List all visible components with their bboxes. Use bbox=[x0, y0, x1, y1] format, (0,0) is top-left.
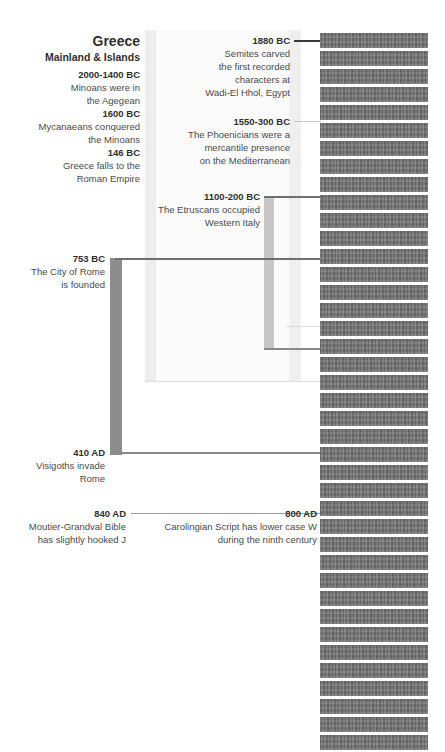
redacted-text-row bbox=[320, 249, 428, 264]
redacted-text-row bbox=[320, 303, 428, 318]
connector-300bc-tick bbox=[287, 326, 321, 327]
redacted-text-row bbox=[320, 663, 428, 678]
entry-year: 1600 BC bbox=[0, 107, 140, 120]
redacted-text-row bbox=[320, 393, 428, 408]
redacted-text-row bbox=[320, 591, 428, 606]
entry-year: 146 BC bbox=[0, 146, 140, 159]
redacted-text-row bbox=[320, 447, 428, 462]
redacted-text-row bbox=[320, 177, 428, 192]
connector-1550bc bbox=[294, 121, 321, 122]
redacted-text-row bbox=[320, 231, 428, 246]
redacted-text-row bbox=[320, 717, 428, 732]
connector-1880bc bbox=[294, 40, 321, 42]
entry-1880bc: 1880 BC Semites carved the first recorde… bbox=[160, 34, 290, 99]
redacted-text-row bbox=[320, 735, 428, 750]
redacted-text-row bbox=[320, 105, 428, 120]
redacted-text-row bbox=[320, 339, 428, 354]
connector-410ad bbox=[115, 452, 321, 454]
redacted-text-row bbox=[320, 357, 428, 372]
band-semitic-pale bbox=[289, 30, 301, 382]
redacted-text-row bbox=[320, 483, 428, 498]
redacted-text-row bbox=[320, 645, 428, 660]
redacted-text-row bbox=[320, 465, 428, 480]
entry-2000-1400bc: 2000-1400 BC Minoans were in the Agegean bbox=[0, 68, 140, 107]
redacted-text-row bbox=[320, 375, 428, 390]
redacted-text-row bbox=[320, 87, 428, 102]
redacted-text-row bbox=[320, 501, 428, 516]
redacted-text-column bbox=[320, 33, 428, 752]
entry-desc: The Etruscans occupied Western Italy bbox=[130, 203, 260, 229]
entry-year: 2000-1400 BC bbox=[0, 68, 140, 81]
entry-1600bc: 1600 BC Mycanaeans conquered the Minoans bbox=[0, 107, 140, 146]
connector-1100bc bbox=[264, 196, 321, 198]
entry-year: 410 AD bbox=[0, 446, 105, 459]
entry-800ad: 800 AD Carolingian Script has lower case… bbox=[135, 507, 317, 546]
entry-desc: Mycanaeans conquered the Minoans bbox=[0, 120, 140, 146]
redacted-text-row bbox=[320, 573, 428, 588]
entry-year: 1550-300 BC bbox=[150, 115, 290, 128]
entry-year: 1880 BC bbox=[160, 34, 290, 47]
connector-etruscan-end bbox=[264, 348, 321, 350]
redacted-text-row bbox=[320, 429, 428, 444]
page-subtitle: Mainland & Islands bbox=[0, 50, 140, 65]
entry-753bc: 753 BC The City of Rome is founded bbox=[0, 252, 105, 291]
redacted-text-row bbox=[320, 627, 428, 642]
connector-band-baseline bbox=[145, 381, 321, 382]
entry-desc: The City of Rome is founded bbox=[0, 265, 105, 291]
band-etruscan-dark bbox=[264, 196, 274, 349]
redacted-text-row bbox=[320, 123, 428, 138]
timeline-figure: Greece Mainland & Islands 2000-1400 BC M… bbox=[0, 0, 445, 752]
redacted-text-row bbox=[320, 213, 428, 228]
entry-desc: The Phoenicians were a mercantile presen… bbox=[150, 128, 290, 167]
connector-753bc bbox=[115, 258, 321, 260]
entry-840ad: 840 AD Moutier-Grandval Bible has slight… bbox=[0, 507, 126, 546]
redacted-text-row bbox=[320, 681, 428, 696]
redacted-text-row bbox=[320, 555, 428, 570]
entry-1100-200bc: 1100-200 BC The Etruscans occupied Weste… bbox=[130, 190, 260, 229]
redacted-text-row bbox=[320, 699, 428, 714]
redacted-text-row bbox=[320, 51, 428, 66]
entry-410ad: 410 AD Visigoths invade Rome bbox=[0, 446, 105, 485]
entry-desc: Minoans were in the Agegean bbox=[0, 81, 140, 107]
entry-year: 753 BC bbox=[0, 252, 105, 265]
redacted-text-row bbox=[320, 33, 428, 48]
band-rome-dark bbox=[110, 258, 122, 455]
redacted-text-row bbox=[320, 285, 428, 300]
redacted-text-row bbox=[320, 537, 428, 552]
redacted-text-row bbox=[320, 411, 428, 426]
redacted-text-row bbox=[320, 267, 428, 282]
page-title: Greece bbox=[0, 33, 140, 50]
entry-year: 800 AD bbox=[135, 507, 317, 520]
redacted-text-row bbox=[320, 141, 428, 156]
entry-1550-300bc: 1550-300 BC The Phoenicians were a merca… bbox=[150, 115, 290, 167]
redacted-text-row bbox=[320, 159, 428, 174]
entry-desc: Moutier-Grandval Bible has slightly hook… bbox=[0, 520, 126, 546]
entry-year: 840 AD bbox=[0, 507, 126, 520]
entry-146bc: 146 BC Greece falls to the Roman Empire bbox=[0, 146, 140, 185]
redacted-text-row bbox=[320, 69, 428, 84]
redacted-text-row bbox=[320, 519, 428, 534]
entry-desc: Visigoths invade Rome bbox=[0, 459, 105, 485]
title-block: Greece Mainland & Islands bbox=[0, 33, 140, 65]
redacted-text-row bbox=[320, 609, 428, 624]
redacted-text-row bbox=[320, 195, 428, 210]
entry-desc: Carolingian Script has lower case W duri… bbox=[135, 520, 317, 546]
entry-desc: Greece falls to the Roman Empire bbox=[0, 159, 140, 185]
redacted-text-row bbox=[320, 321, 428, 336]
entry-year: 1100-200 BC bbox=[130, 190, 260, 203]
entry-desc: Semites carved the first recorded charac… bbox=[160, 47, 290, 99]
